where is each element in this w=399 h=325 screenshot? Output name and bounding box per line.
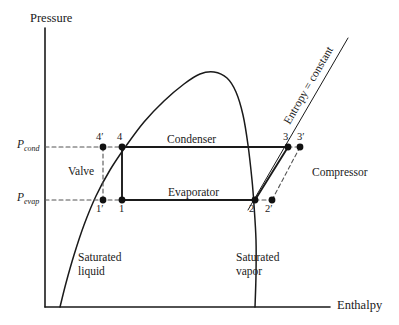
pressure-level-evap: Pevap [17, 191, 39, 203]
curve-compressor-line-isentropic [255, 147, 288, 200]
p-cond-base: P [17, 138, 24, 150]
condenser-label: Condenser [167, 133, 216, 145]
curve-entropy-constant-line [248, 38, 348, 210]
saturated-vapor-line-2: vapor [236, 264, 279, 278]
evaporator-label: Evaporator [168, 186, 219, 198]
state-point-label: 4′ [96, 131, 104, 142]
saturated-vapor-line-1: Saturated [236, 250, 279, 264]
state-point-label: 3′ [297, 131, 305, 142]
state-point-label: 4 [117, 131, 122, 142]
diagram-canvas [0, 0, 399, 325]
saturated-liquid-line-1: Saturated [78, 250, 121, 264]
ph-diagram-figure: Pressure Enthalpy Pcond Pevap Condenser … [0, 0, 399, 325]
saturated-liquid-label: Saturated liquid [78, 250, 121, 278]
p-cond-sub: cond [24, 144, 40, 153]
state-point-label: 2 [249, 203, 254, 214]
p-evap-sub: evap [24, 197, 39, 206]
state-point-marker [285, 144, 292, 151]
x-axis-title: Enthalpy [337, 299, 382, 312]
pressure-level-cond: Pcond [17, 138, 40, 150]
saturated-vapor-label: Saturated vapor [236, 250, 279, 278]
p-evap-base: P [17, 191, 24, 203]
state-point-label: 1 [119, 203, 124, 214]
state-point-label: 1′ [96, 203, 104, 214]
state-point-marker [100, 144, 107, 151]
curve-compressor-line-actual [272, 147, 300, 200]
compressor-label: Compressor [312, 166, 368, 178]
state-point-label: 3 [283, 131, 288, 142]
state-point-marker [119, 144, 126, 151]
valve-label: Valve [68, 165, 94, 177]
saturated-liquid-line-2: liquid [78, 264, 121, 278]
state-point-label: 2′ [265, 203, 273, 214]
y-axis-title: Pressure [30, 12, 72, 25]
state-point-marker [297, 144, 304, 151]
